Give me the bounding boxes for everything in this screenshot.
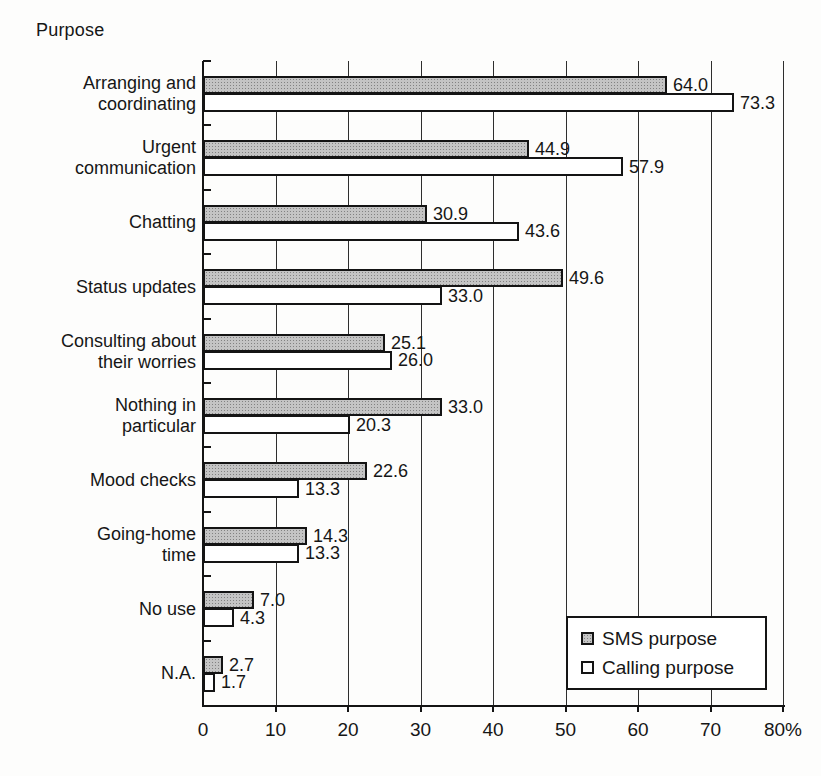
bar-calling bbox=[203, 157, 623, 176]
bar-sms bbox=[203, 140, 529, 158]
x-axis-tick bbox=[275, 707, 277, 712]
y-axis-tick bbox=[203, 253, 211, 255]
bar-sms bbox=[203, 205, 427, 223]
x-axis-tick bbox=[710, 707, 712, 712]
bar-calling bbox=[203, 222, 519, 241]
bar-sms bbox=[203, 462, 367, 480]
bar-calling bbox=[203, 608, 234, 627]
legend-item-sms: SMS purpose bbox=[581, 628, 765, 650]
x-axis-tick bbox=[637, 707, 639, 712]
x-tick-label: 80% bbox=[764, 719, 802, 741]
value-label-sms: 64.0 bbox=[673, 75, 708, 95]
bar-sms bbox=[203, 269, 563, 287]
category-label: Status updates bbox=[28, 277, 196, 298]
bar-sms bbox=[203, 334, 385, 352]
bar-calling bbox=[203, 351, 392, 370]
legend: SMS purpose Calling purpose bbox=[566, 616, 767, 690]
value-label-sms: 22.6 bbox=[373, 461, 408, 481]
y-axis-tick bbox=[203, 446, 211, 448]
x-axis-tick bbox=[347, 707, 349, 712]
gridline bbox=[711, 61, 712, 705]
x-tick-label: 50 bbox=[555, 719, 576, 741]
value-label-calling: 4.3 bbox=[240, 608, 265, 628]
value-label-calling: 73.3 bbox=[740, 93, 775, 113]
y-axis-tick bbox=[203, 60, 211, 62]
y-axis-tick bbox=[203, 189, 211, 191]
x-tick-label: 30 bbox=[410, 719, 431, 741]
category-label: N.A. bbox=[28, 663, 196, 684]
bar-calling bbox=[203, 479, 299, 498]
category-label: No use bbox=[28, 599, 196, 620]
category-label: Consulting about their worries bbox=[28, 331, 196, 373]
x-axis-tick bbox=[420, 707, 422, 712]
value-label-calling: 43.6 bbox=[525, 221, 560, 241]
bar-sms bbox=[203, 591, 254, 609]
x-tick-label: 70 bbox=[700, 719, 721, 741]
value-label-calling: 13.3 bbox=[305, 543, 340, 563]
legend-item-calling: Calling purpose bbox=[581, 657, 765, 679]
value-label-calling: 20.3 bbox=[356, 415, 391, 435]
category-label: Arranging and coordinating bbox=[28, 73, 196, 115]
legend-label-calling: Calling purpose bbox=[602, 657, 734, 679]
bar-sms bbox=[203, 76, 667, 94]
category-label: Chatting bbox=[28, 212, 196, 233]
x-tick-label: 0 bbox=[198, 719, 209, 741]
value-label-calling: 13.3 bbox=[305, 479, 340, 499]
x-tick-label: 40 bbox=[482, 719, 503, 741]
y-axis-tick bbox=[203, 382, 211, 384]
gridline bbox=[783, 61, 784, 705]
value-label-sms: 33.0 bbox=[448, 397, 483, 417]
bar-calling bbox=[203, 544, 299, 563]
y-axis-tick bbox=[203, 575, 211, 577]
x-axis-tick bbox=[565, 707, 567, 712]
bar-calling bbox=[203, 93, 734, 112]
legend-swatch-calling-icon bbox=[581, 661, 594, 674]
bar-sms bbox=[203, 656, 223, 674]
bar-sms bbox=[203, 527, 307, 545]
y-axis-tick bbox=[203, 640, 211, 642]
bar-calling bbox=[203, 286, 442, 305]
legend-swatch-sms-icon bbox=[581, 632, 594, 645]
value-label-sms: 30.9 bbox=[433, 204, 468, 224]
x-axis-tick bbox=[492, 707, 494, 712]
value-label-calling: 57.9 bbox=[629, 157, 664, 177]
x-tick-label: 10 bbox=[265, 719, 286, 741]
value-label-calling: 1.7 bbox=[221, 672, 246, 692]
x-tick-label: 20 bbox=[337, 719, 358, 741]
y-axis-tick bbox=[203, 511, 211, 513]
category-label: Mood checks bbox=[28, 470, 196, 491]
category-label: Urgent communication bbox=[28, 137, 196, 179]
y-axis-tick bbox=[203, 124, 211, 126]
value-label-calling: 33.0 bbox=[448, 286, 483, 306]
x-tick-label: 60 bbox=[627, 719, 648, 741]
legend-label-sms: SMS purpose bbox=[602, 628, 717, 650]
y-axis-tick bbox=[203, 318, 211, 320]
bar-sms bbox=[203, 398, 442, 416]
category-label: Going-home time bbox=[28, 524, 196, 566]
value-label-sms: 44.9 bbox=[535, 139, 570, 159]
x-axis-tick bbox=[782, 707, 784, 712]
value-label-calling: 26.0 bbox=[398, 350, 433, 370]
value-label-sms: 49.6 bbox=[569, 268, 604, 288]
bar-chart: Purpose SMS purpose Calling purpose 0102… bbox=[0, 0, 821, 776]
category-label: Nothing in particular bbox=[28, 395, 196, 437]
y-axis-title: Purpose bbox=[36, 20, 104, 41]
bar-calling bbox=[203, 673, 215, 692]
bar-calling bbox=[203, 415, 350, 434]
